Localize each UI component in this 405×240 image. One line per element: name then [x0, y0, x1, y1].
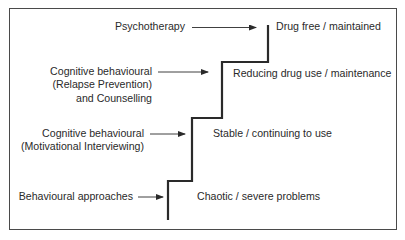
stage-label-chaotic: Chaotic / severe problems: [197, 190, 320, 203]
intervention-line: and Counselling: [50, 92, 152, 105]
intervention-line: Behavioural approaches: [19, 190, 133, 203]
intervention-line: (Relapse Prevention): [50, 78, 152, 91]
intervention-line: (Motivational Interviewing): [21, 140, 144, 153]
intervention-label-behavioural-approaches: Behavioural approaches: [19, 190, 133, 203]
intervention-label-relapse-prevention: Cognitive behavioural (Relapse Preventio…: [50, 65, 152, 105]
intervention-label-psychotherapy: Psychotherapy: [115, 20, 185, 33]
intervention-line: Cognitive behavioural: [21, 127, 144, 140]
intervention-line: Cognitive behavioural: [50, 65, 152, 78]
stage-label-drug-free: Drug free / maintained: [276, 20, 381, 33]
intervention-label-motivational-interviewing: Cognitive behavioural (Motivational Inte…: [21, 127, 144, 154]
stage-label-stable: Stable / continuing to use: [213, 127, 332, 140]
stage-label-reducing-drug-use: Reducing drug use / maintenance: [233, 67, 391, 80]
intervention-line: Psychotherapy: [115, 20, 185, 33]
